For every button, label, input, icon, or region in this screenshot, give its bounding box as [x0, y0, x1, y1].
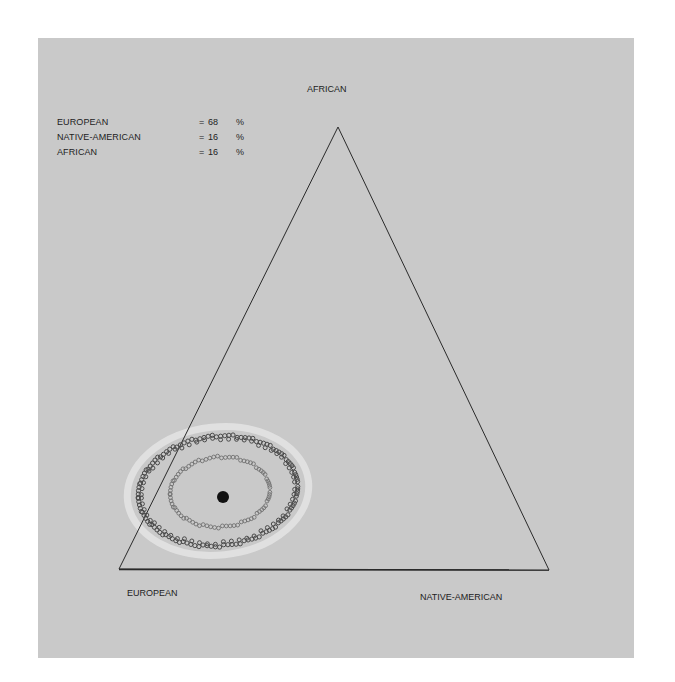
- outer-contour: [136, 433, 300, 549]
- ternary-triangle: [119, 127, 549, 570]
- vertex-label-native-american: NATIVE-AMERICAN: [420, 592, 502, 602]
- point-estimate-dot: [217, 491, 229, 503]
- outer-halo: [121, 418, 315, 564]
- ternary-plot: [0, 0, 675, 682]
- vertex-label-european: EUROPEAN: [127, 588, 178, 598]
- vertex-label-african: AFRICAN: [307, 84, 347, 94]
